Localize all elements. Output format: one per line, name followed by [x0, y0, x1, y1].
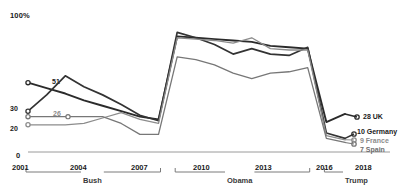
x-tick-2013: 2013: [255, 164, 272, 172]
series-line-uk: [28, 36, 345, 122]
era-label-bush: Bush: [83, 176, 102, 185]
end-label-germany: 10 Germany: [357, 128, 397, 135]
series-line-france: [28, 38, 345, 140]
line-chart: 100% 51 30 26 20 0 2001 2004 2007 2010 2…: [0, 0, 410, 187]
x-tick-2004: 2004: [70, 164, 87, 172]
x-tick-2001: 2001: [12, 164, 29, 172]
end-label-france: 9 France: [360, 137, 389, 144]
end-label-uk: 28 UK: [363, 113, 383, 120]
series-line-spain: [28, 57, 345, 143]
start-marker-uk: [26, 81, 30, 85]
x-tick-2016: 2016: [316, 164, 333, 172]
start-marker-germany: [26, 109, 30, 113]
end-label-spain: 7 Spain: [360, 146, 385, 153]
start-marker-spain: [26, 115, 30, 119]
era-label-trump: Trump: [345, 176, 368, 185]
chart-plot-area: [0, 0, 410, 187]
start-marker-france: [26, 123, 30, 127]
x-tick-2010: 2010: [193, 164, 210, 172]
era-label-obama: Obama: [227, 176, 252, 185]
x-tick-2018: 2018: [355, 164, 372, 172]
era-label-backdrop: [225, 168, 254, 174]
series-endpoint-markers: [26, 81, 359, 147]
x-tick-2007: 2007: [131, 164, 148, 172]
series-lines: [28, 32, 345, 142]
start-marker-spain-callout: [66, 115, 70, 119]
